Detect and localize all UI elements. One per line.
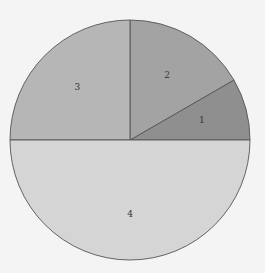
slice-label-2: 2 — [164, 70, 170, 80]
pie-slice-3 — [10, 20, 130, 140]
pie-slice-4 — [10, 140, 250, 260]
pie-chart: 1234 — [0, 0, 265, 273]
slice-label-4: 4 — [127, 209, 133, 219]
slice-label-3: 3 — [75, 82, 81, 92]
pie-slices — [10, 20, 250, 260]
slice-label-1: 1 — [199, 115, 205, 125]
